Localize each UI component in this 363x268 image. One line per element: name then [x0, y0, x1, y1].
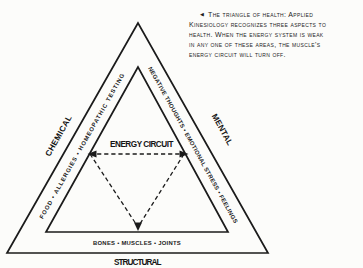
- mental-label: MENTAL: [210, 112, 235, 147]
- dashed-edge-right: [138, 154, 184, 227]
- figure-caption: ◀The triangle of health: Applied Kinesio…: [189, 10, 363, 60]
- pointer-left-icon: ◀: [200, 9, 204, 19]
- arrowhead-down-icon: [134, 223, 142, 232]
- caption-line-text: The triangle of health: Applied: [208, 11, 313, 18]
- chemical-label: CHEMICAL: [44, 114, 74, 158]
- page: ENERGY CIRCUIT CHEMICAL MENTAL STRUCTURA…: [0, 0, 363, 268]
- dashed-edge-left: [90, 154, 138, 227]
- caption-line: ◀The triangle of health: Applied: [189, 10, 363, 20]
- energy-circuit-loop: [88, 151, 189, 232]
- structural-label: STRUCTURAL: [114, 258, 162, 267]
- caption-line: in any one of these areas, the muscle's: [189, 40, 363, 50]
- structural-items-text: BONES • MUSCLES • JOINTS: [93, 240, 181, 246]
- caption-line: energy circuit will turn off.: [189, 50, 363, 60]
- inner-triangle: [46, 67, 228, 232]
- energy-circuit-label: ENERGY CIRCUIT: [110, 140, 174, 149]
- caption-line: health. When the energy system is weak: [189, 30, 363, 40]
- caption-line: Kinesiology recognizes three aspects to: [189, 20, 363, 30]
